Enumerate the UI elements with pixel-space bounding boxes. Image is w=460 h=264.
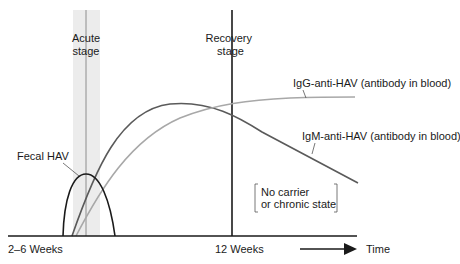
x-axis-label: Time [366,243,390,255]
note-text-2: or chronic state [261,198,336,210]
recovery-stage-label-2: stage [217,45,244,57]
igg-curve [76,97,355,236]
igm-label: IgM-anti-HAV (antibody in blood) [302,130,460,142]
x-tick-start: 2–6 Weeks [8,243,63,255]
note-bracket-left [255,184,258,212]
igg-label: IgG-anti-HAV (antibody in blood) [293,77,451,89]
fecal-hav-label: Fecal HAV [17,150,69,162]
igm-leader [312,143,315,154]
time-arrow-head-icon [344,243,357,255]
recovery-stage-label: Recovery [206,32,253,44]
igm-curve [72,103,358,236]
note-text: No carrier [261,186,310,198]
acute-stage-label: Acute [72,32,100,44]
x-tick-12-weeks: 12 Weeks [215,243,264,255]
hav-timeline-diagram: Acute stage Recovery stage IgG-anti-HAV … [0,0,460,264]
acute-stage-label-2: stage [73,45,100,57]
